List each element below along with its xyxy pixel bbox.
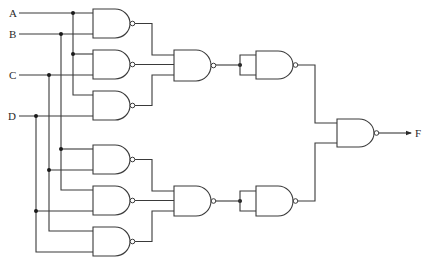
- stage3-output-wires: [298, 65, 337, 201]
- nand-gate-g4: [93, 145, 135, 174]
- nand-gate-g8: [174, 186, 216, 216]
- input-wires: [19, 13, 93, 252]
- logic-circuit-diagram: A B C D: [0, 0, 428, 267]
- nand-gate-g2: [93, 50, 135, 79]
- wire-d-bus: [36, 116, 93, 252]
- wire-b-bus: [61, 34, 93, 190]
- input-label-a: A: [9, 7, 17, 19]
- stage1-output-wires: [135, 24, 174, 242]
- nand-gate-g5: [93, 186, 135, 215]
- input-label-c: C: [9, 69, 16, 81]
- nand-gate-g11: [337, 119, 379, 147]
- stage2-output-wires: [216, 55, 256, 211]
- nand-gate-g7: [174, 50, 216, 81]
- nand-gate-g9: [256, 51, 298, 79]
- nand-gate-g6: [93, 227, 135, 256]
- nand-gate-g10: [256, 186, 298, 216]
- nand-gate-g1: [93, 9, 135, 38]
- nand-gate-g3: [93, 91, 135, 120]
- junction-dots: [34, 11, 242, 213]
- wire-c-bus: [49, 75, 93, 231]
- input-label-d: D: [8, 110, 16, 122]
- input-label-b: B: [9, 28, 16, 40]
- output-label-f: F: [415, 127, 421, 139]
